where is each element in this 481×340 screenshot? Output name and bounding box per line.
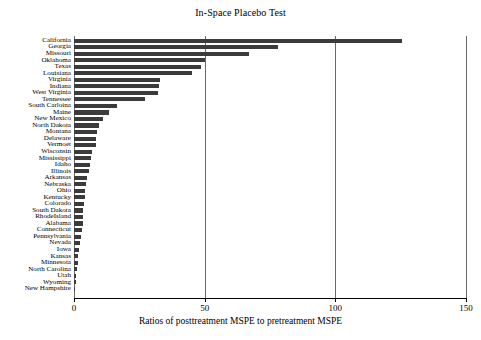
bar-wyoming (74, 280, 76, 284)
x-tick-label-0: 0 (59, 303, 89, 313)
x-axis-line (74, 298, 467, 299)
bar-virginia (74, 78, 160, 82)
bar-north-carolina (74, 267, 77, 271)
bar-georgia (74, 45, 278, 49)
bar-north-dakota (74, 123, 99, 127)
x-tick (205, 298, 206, 302)
bar-ohio (74, 189, 85, 193)
x-tick (74, 298, 75, 302)
y-axis-labels: CaliforniaGeorgiaMissouriOklahomaTexasLo… (0, 36, 71, 298)
bar-idaho (74, 163, 90, 167)
bar-row (74, 286, 466, 293)
bar-indiana (74, 84, 159, 88)
x-tick (466, 298, 467, 302)
bar-south-carloina (74, 104, 117, 108)
plot-area (74, 36, 466, 298)
bar-tennessee (74, 97, 145, 101)
bar-utah (74, 274, 76, 278)
chart-title: In-Space Placebo Test (0, 7, 481, 18)
bar-series (74, 36, 466, 298)
gridline-150 (466, 36, 467, 298)
bar-pennsylvania (74, 235, 81, 239)
bar-delaware (74, 137, 96, 141)
x-tick-label-150: 150 (451, 303, 481, 313)
bar-minnesota (74, 261, 78, 265)
bar-new-hampshire (74, 287, 75, 291)
bar-west-virginia (74, 91, 158, 95)
bar-nebraska (74, 182, 86, 186)
bar-oklahoma (74, 58, 205, 62)
bar-texas (74, 65, 201, 69)
bar-illinois (74, 169, 89, 173)
bar-rhodeisland (74, 215, 83, 219)
x-axis-title: Ratios of posttreatment MSPE to pretreat… (0, 316, 481, 326)
bar-nevada (74, 241, 80, 245)
bar-louisiana (74, 71, 192, 75)
bar-colorado (74, 202, 84, 206)
bar-mississippi (74, 156, 91, 160)
bar-kentucky (74, 195, 85, 199)
bar-maine (74, 110, 109, 114)
bar-kansas (74, 254, 78, 258)
bar-wisconsin (74, 150, 92, 154)
chart-figure: In-Space Placebo Test 050100150 Californ… (0, 0, 481, 340)
bar-vermoet (74, 143, 96, 147)
x-tick-label-100: 100 (320, 303, 350, 313)
x-tick (335, 298, 336, 302)
bar-alabama (74, 221, 83, 225)
bar-california (74, 39, 402, 43)
bar-arkansas (74, 176, 87, 180)
bar-missouri (74, 52, 249, 56)
bar-montana (74, 130, 97, 134)
bar-new-mexico (74, 117, 103, 121)
bar-south-dakota (74, 208, 83, 212)
x-tick-label-50: 50 (190, 303, 220, 313)
y-label-new-hampshire: New Hampshire (0, 285, 71, 292)
bar-iowa (74, 248, 79, 252)
bar-connecticut (74, 228, 82, 232)
